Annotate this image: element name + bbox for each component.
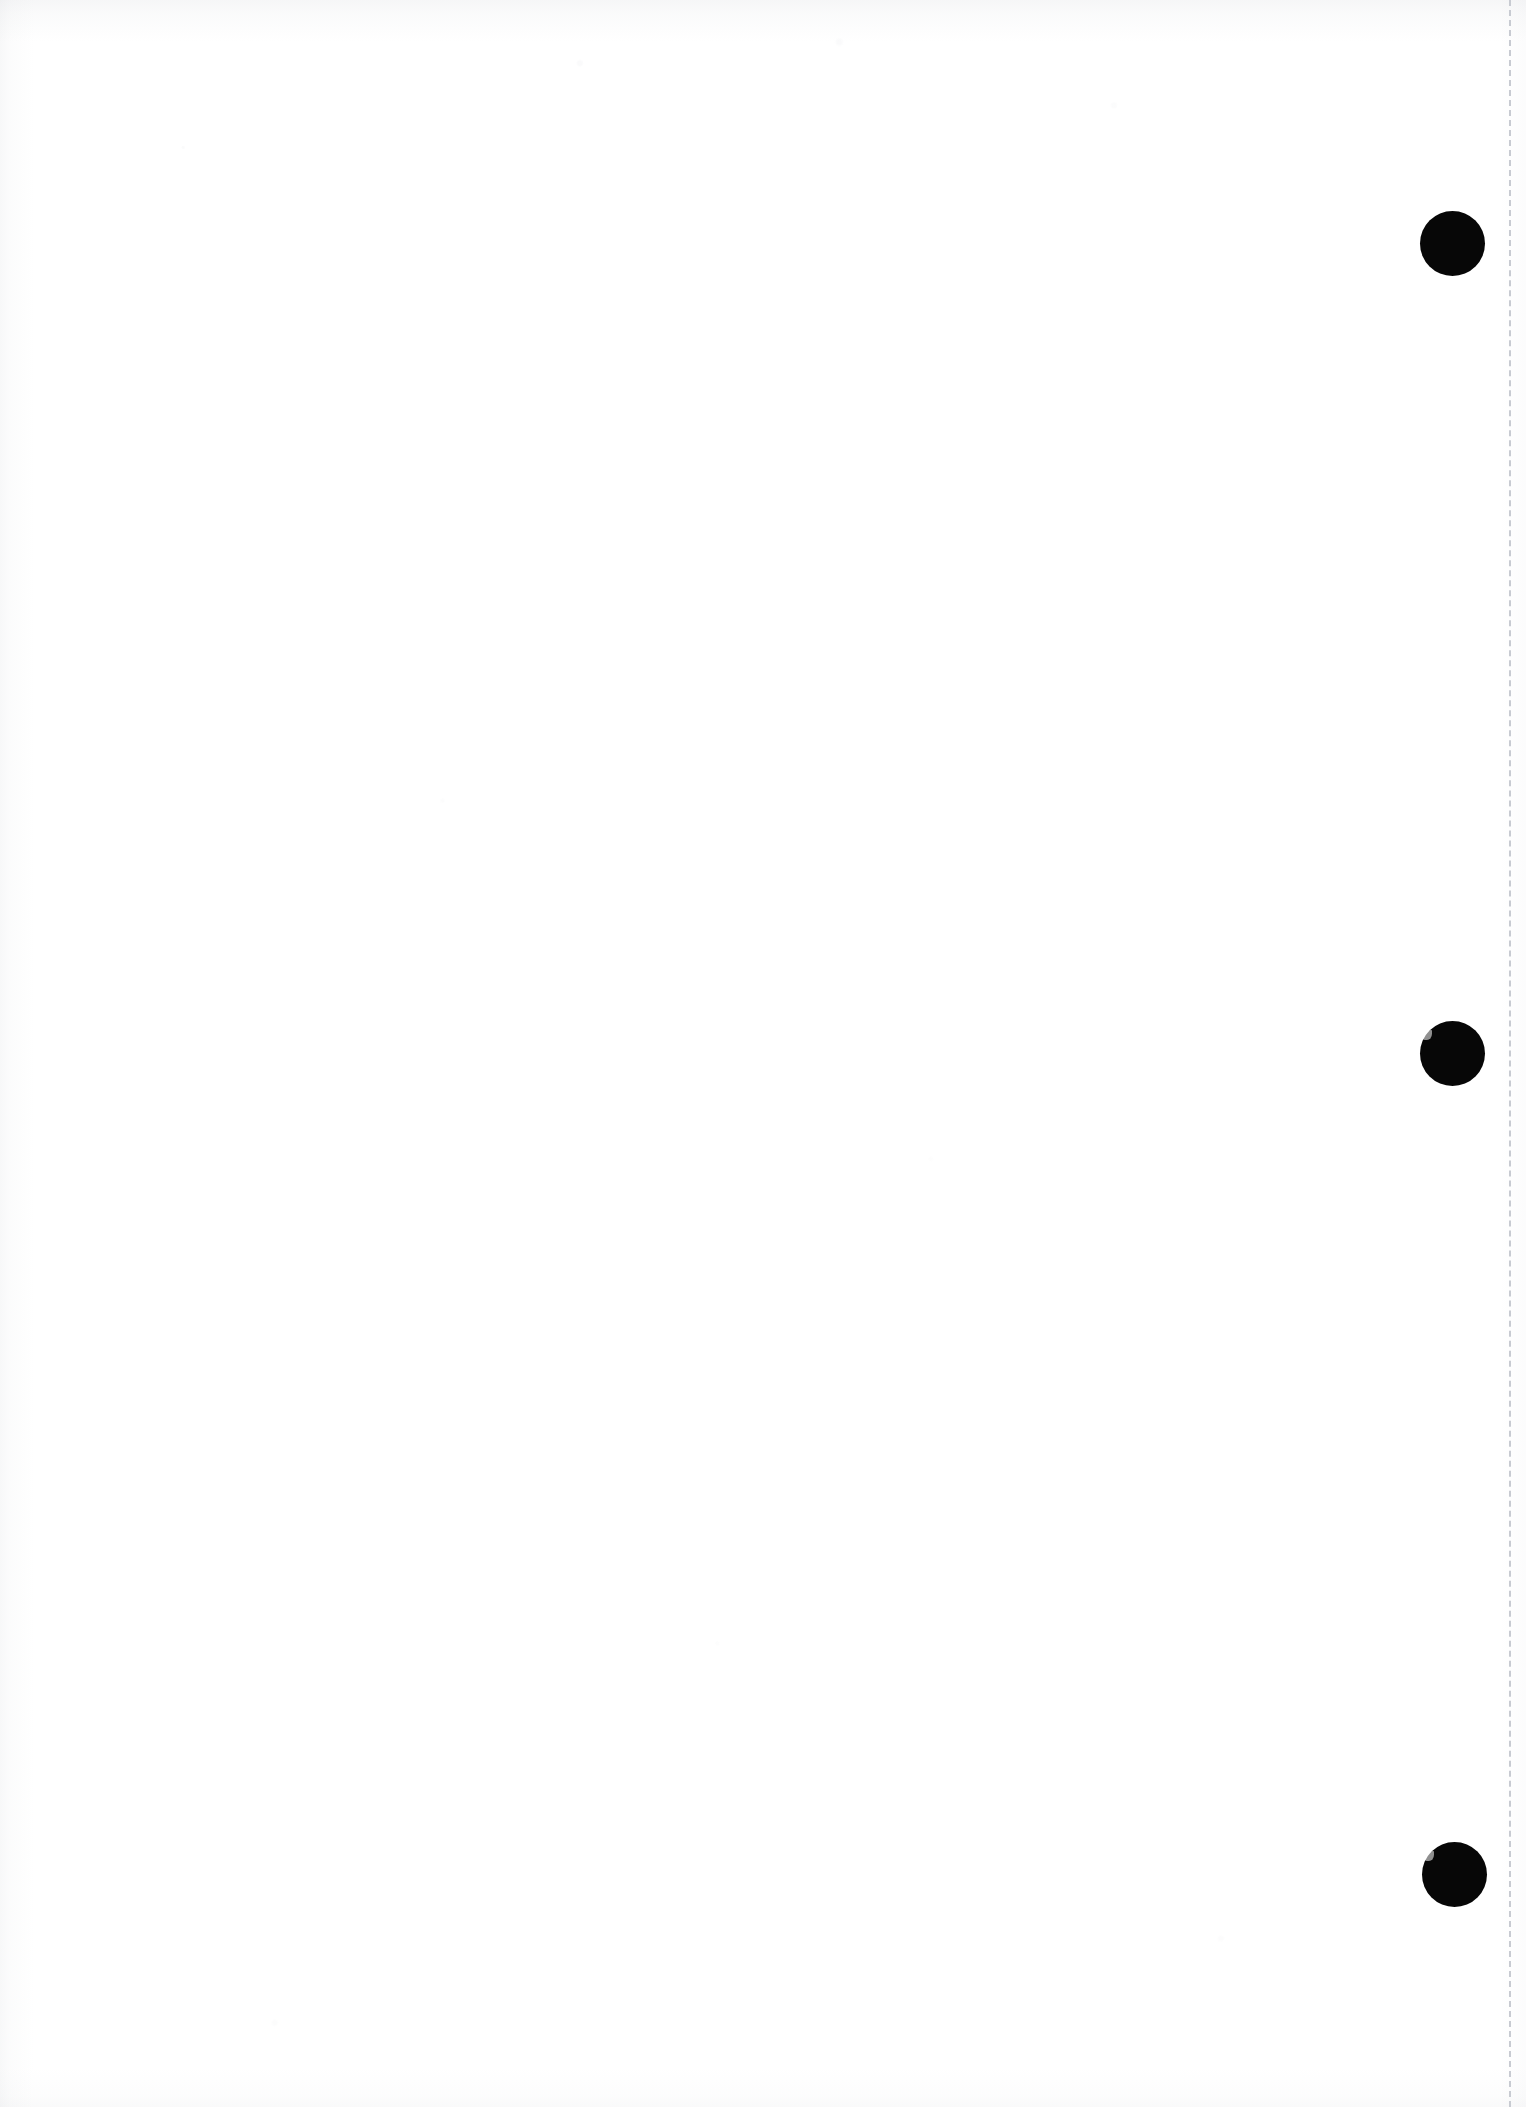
black-dot-marker-3: [1422, 1842, 1487, 1907]
black-dot-marker-1: [1420, 211, 1485, 276]
page-body-text: [90, 120, 1340, 1970]
scanned-page: [0, 0, 1526, 2107]
black-dot-marker-2: [1420, 1021, 1485, 1086]
vertical-dashed-margin-line: [1509, 0, 1511, 2107]
